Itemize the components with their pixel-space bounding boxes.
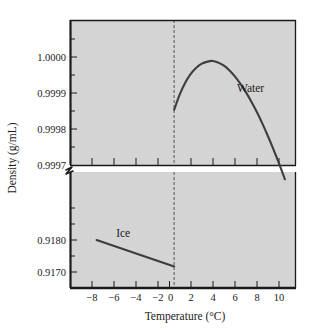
xtick-label-minus-6: −6 [108, 292, 119, 303]
xtick-label-minus-2: −2 [152, 292, 163, 303]
ytick-label-0.9998: 0.9998 [37, 124, 66, 135]
ytick-label-0.9170: 0.9170 [37, 267, 66, 278]
ytick-label-1.0000: 1.0000 [37, 52, 66, 63]
ytick-label-0.9999: 0.9999 [37, 88, 66, 99]
ytick-label-0.9997: 0.9997 [37, 160, 66, 171]
xtick-label-10: 10 [274, 292, 285, 303]
lower-panel-background [70, 172, 296, 288]
xtick-label-2: 2 [188, 292, 193, 303]
xtick-label-4: 4 [210, 292, 216, 303]
xtick-label-0: 0 [168, 292, 173, 303]
xtick-label-8: 8 [254, 292, 259, 303]
x-axis-title: Temperature (°C) [145, 310, 226, 323]
water-series-label: Water [237, 82, 264, 94]
xtick-label-minus-4: −4 [130, 292, 142, 303]
density-temperature-chart: 1.0000 0.9999 0.9998 0.9997 0.9180 0.917… [0, 0, 309, 331]
y-axis-title: Density (g/mL) [6, 122, 19, 193]
xtick-label-6: 6 [232, 292, 237, 303]
ice-series-label: Ice [116, 227, 130, 239]
chart-canvas: 1.0000 0.9999 0.9998 0.9997 0.9180 0.917… [0, 0, 309, 331]
xtick-label-minus-8: −8 [86, 292, 97, 303]
ytick-label-0.9180: 0.9180 [37, 235, 66, 246]
